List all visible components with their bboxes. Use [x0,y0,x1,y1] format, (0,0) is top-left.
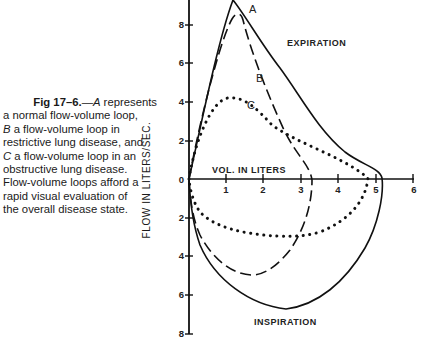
curve-b-restrictive [189,14,312,275]
svg-text:6: 6 [411,184,416,195]
curve-c-label: C [247,99,255,111]
svg-text:2: 2 [179,212,184,223]
svg-text:0: 0 [179,174,184,185]
curve-a-label: A [249,3,257,15]
x-tick-labels: 1 2 3 4 5 6 [223,184,416,195]
svg-text:4: 4 [335,184,341,195]
svg-text:2: 2 [179,135,184,146]
flow-volume-chart: 8 6 4 2 0 2 4 6 8 1 2 3 4 5 6 VOL. IN LI… [0,0,426,338]
expiration-label: EXPIRATION [287,38,346,48]
svg-text:6: 6 [179,289,184,300]
svg-text:5: 5 [373,184,379,195]
x-axis-label: VOL. IN LITERS [212,165,286,175]
inspiration-label: INSPIRATION [254,317,317,327]
svg-text:8: 8 [179,328,184,338]
svg-text:4: 4 [179,96,185,107]
svg-text:1: 1 [223,184,229,195]
curve-b-label: B [256,72,263,84]
svg-text:2: 2 [260,184,265,195]
y-tick-labels: 8 6 4 2 0 2 4 6 8 [179,19,185,338]
svg-text:8: 8 [179,19,184,30]
svg-text:4: 4 [179,250,185,261]
svg-text:3: 3 [298,184,303,195]
curve-a-normal [189,0,382,309]
svg-text:6: 6 [179,57,184,68]
